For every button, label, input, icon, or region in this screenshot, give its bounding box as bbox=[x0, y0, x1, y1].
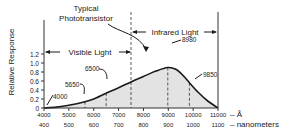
x-tick-label-nm: 400 bbox=[39, 122, 50, 128]
x-tick-label-nm: 1000 bbox=[186, 122, 200, 128]
arrowhead bbox=[126, 50, 131, 54]
unit-nanometers: – nanometers bbox=[230, 120, 279, 129]
y-axis-label: Relative Response bbox=[7, 28, 16, 96]
x-tick-label-angstrom: 7000 bbox=[112, 112, 126, 118]
arrowhead bbox=[212, 30, 217, 34]
x-tick-label-nm: 800 bbox=[138, 122, 149, 128]
annotation-arrow bbox=[195, 74, 202, 79]
x-tick-label-angstrom: 9000 bbox=[162, 112, 176, 118]
y-tick-label: 0 bbox=[35, 105, 39, 112]
annotation-arrow bbox=[47, 95, 53, 105]
y-tick-label: 1.2 bbox=[30, 51, 39, 58]
annotation-arrow bbox=[80, 84, 84, 94]
x-tick-label-nm: 700 bbox=[114, 122, 125, 128]
y-tick-label: 0.6 bbox=[30, 78, 39, 85]
arrowhead bbox=[45, 50, 50, 54]
unit-angstrom: – Å bbox=[230, 110, 243, 119]
annotation-arrow bbox=[99, 69, 107, 79]
x-tick-label-angstrom: 11000 bbox=[210, 112, 227, 118]
x-ticks: 4000400500050060006007000700800080090009… bbox=[37, 108, 226, 128]
annotation-4000: 4000 bbox=[53, 93, 68, 100]
annotation-arrow bbox=[172, 40, 181, 43]
y-tick-label: 0.2 bbox=[30, 96, 39, 103]
x-tick-label-nm: 1100 bbox=[212, 122, 226, 128]
arrowhead bbox=[132, 30, 137, 34]
title-arrowhead bbox=[143, 46, 149, 52]
x-tick-label-angstrom: 10000 bbox=[185, 112, 202, 118]
annotation-5650: 5650 bbox=[65, 81, 80, 88]
x-tick-label-nm: 600 bbox=[89, 122, 100, 128]
x-tick-label-angstrom: 5000 bbox=[62, 112, 76, 118]
annotation-8980: 8980 bbox=[182, 36, 197, 43]
y-tick-label: 0.4 bbox=[30, 87, 39, 94]
x-tick-label-nm: 500 bbox=[64, 122, 75, 128]
x-tick-label-angstrom: 4000 bbox=[37, 112, 51, 118]
chart-title-line1: Typical bbox=[74, 4, 99, 13]
x-tick-label-nm: 900 bbox=[163, 122, 174, 128]
y-ticks: 00.20.40.60.81.01.2 bbox=[30, 51, 44, 112]
chart-title-line2: Phototransistor bbox=[59, 14, 113, 23]
visible-light-label: Visible Light bbox=[69, 48, 113, 57]
annotation-6500: 6500 bbox=[85, 65, 100, 72]
y-tick-label: 1.0 bbox=[30, 60, 39, 67]
phototransistor-response-chart: 00.20.40.60.81.01.2 40004005000500600060… bbox=[0, 0, 295, 133]
x-tick-label-angstrom: 8000 bbox=[137, 112, 151, 118]
x-tick-label-angstrom: 6000 bbox=[87, 112, 101, 118]
annotation-9850: 9850 bbox=[203, 71, 218, 78]
y-tick-label: 0.8 bbox=[30, 69, 39, 76]
title-pointer-arrow bbox=[108, 24, 146, 50]
